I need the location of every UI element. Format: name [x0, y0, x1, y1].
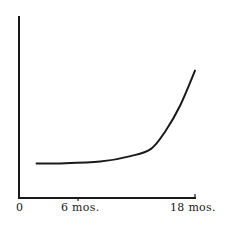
x-tick-label-6mos: 6 mos. — [61, 201, 100, 214]
chart-area — [0, 0, 230, 226]
x-tick-label-0: 0 — [16, 201, 23, 214]
data-curve — [37, 71, 195, 164]
x-tick-label-18mos: 18 mos. — [170, 201, 216, 214]
